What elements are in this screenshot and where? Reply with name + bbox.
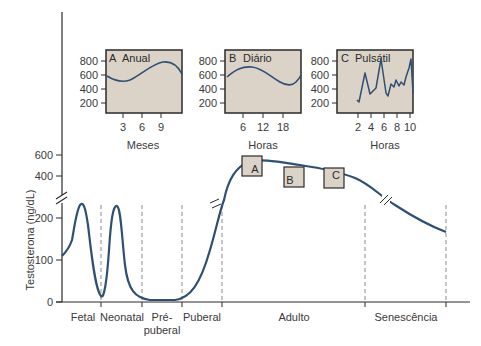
- inset-c-y-800: 800: [311, 55, 329, 67]
- phase-label-prepuberal-line2: puberal: [144, 324, 181, 336]
- svg-text:B: B: [286, 174, 293, 186]
- inset-b-y-200: 200: [199, 97, 217, 109]
- y-tick-600: 600: [35, 149, 53, 161]
- inset-a-annual: 800 600 400 200 3 6 9 Meses A Anual: [80, 50, 182, 151]
- inset-c-x-4: 4: [368, 121, 374, 133]
- y-ticks: [56, 155, 62, 302]
- inset-a-xlabel: Meses: [127, 139, 160, 151]
- inset-a-x-6: 6: [139, 121, 145, 133]
- inset-b-xlabel: Horas: [248, 139, 278, 151]
- x-ticks: [101, 302, 446, 307]
- phase-label-prepuberal-line1: Pré-: [152, 311, 173, 323]
- inset-c-x-8: 8: [394, 121, 400, 133]
- inset-c-xlabel: Horas: [370, 139, 400, 151]
- inset-a-y-600: 600: [80, 69, 98, 81]
- inset-a-y-400: 400: [80, 83, 98, 95]
- inset-a-letter: A: [109, 52, 117, 64]
- y-axis-title: Testosterona (ng/dL): [24, 190, 36, 291]
- phase-label-puberal: Puberal: [183, 311, 221, 323]
- phase-label-adulto: Adulto: [278, 311, 309, 323]
- inset-c-pulsatile: 800 600 400 200 2 4 6 8 10 Horas C Pulsá…: [311, 50, 416, 151]
- inset-b-x-6: 6: [240, 121, 246, 133]
- inset-c-y-400: 400: [311, 83, 329, 95]
- inset-b-y-600: 600: [199, 69, 217, 81]
- y-tick-400: 400: [35, 170, 53, 182]
- inset-a-x-9: 9: [158, 121, 164, 133]
- inset-c-letter: C: [341, 52, 349, 64]
- marker-a: A: [242, 156, 262, 176]
- marker-b: B: [284, 167, 304, 187]
- inset-c-y-200: 200: [311, 97, 329, 109]
- inset-b-y-800: 800: [199, 55, 217, 67]
- y-tick-200: 200: [35, 212, 53, 224]
- phase-label-senescencia: Senescência: [375, 311, 439, 323]
- testosterone-lifespan-chart: 600 400 200 100 0 Testosterona (ng/dL) F…: [0, 0, 481, 346]
- inset-a-y-200: 200: [80, 97, 98, 109]
- inset-b-x-12: 12: [257, 121, 269, 133]
- y-tick-0: 0: [47, 296, 53, 308]
- testosterone-curve: [62, 160, 446, 300]
- svg-text:C: C: [332, 169, 340, 181]
- inset-b-y-400: 400: [199, 83, 217, 95]
- inset-c-x-10: 10: [404, 121, 416, 133]
- inset-c-x-6: 6: [381, 121, 387, 133]
- phase-label-neonatal: Neonatal: [100, 311, 144, 323]
- inset-b-daily: 800 600 400 200 6 12 18 Horas B Diário: [199, 50, 301, 151]
- inset-a-x-3: 3: [120, 121, 126, 133]
- inset-a-name: Anual: [122, 52, 150, 64]
- inset-b-name: Diário: [243, 52, 272, 64]
- marker-c: C: [324, 168, 344, 188]
- inset-c-y-600: 600: [311, 69, 329, 81]
- phase-dividers: [101, 205, 446, 302]
- inset-a-y-800: 800: [80, 55, 98, 67]
- phase-label-fetal: Fetal: [71, 311, 95, 323]
- inset-c-x-2: 2: [355, 121, 361, 133]
- inset-b-letter: B: [229, 52, 236, 64]
- inset-b-x-18: 18: [277, 121, 289, 133]
- svg-text:A: A: [251, 163, 259, 175]
- curve-break-icon: [210, 199, 222, 209]
- y-tick-100: 100: [35, 254, 53, 266]
- inset-c-name: Pulsátil: [355, 52, 390, 64]
